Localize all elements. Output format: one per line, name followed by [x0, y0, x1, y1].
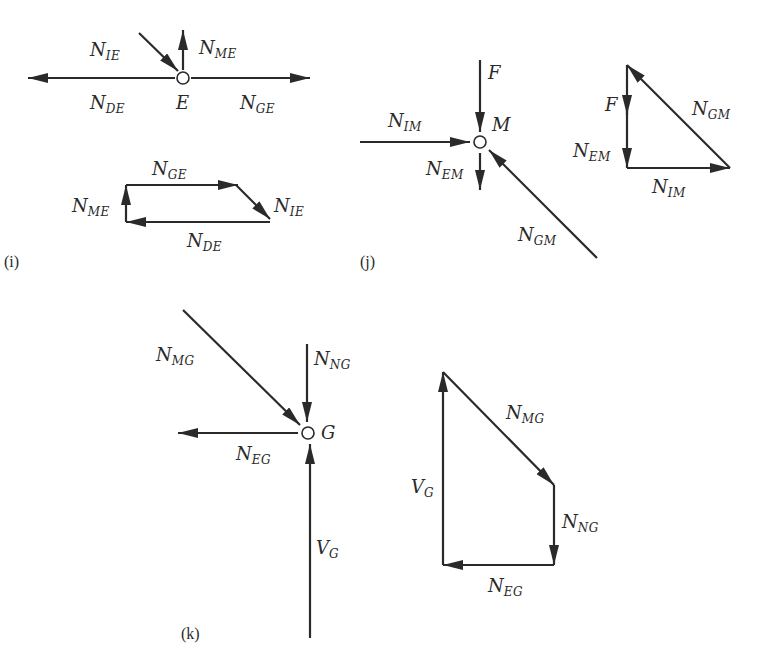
- label-poly-n-de: NDE: [187, 232, 222, 253]
- label-joint-e: E: [176, 94, 189, 112]
- poly-n-mg: [443, 372, 554, 485]
- label-poly-v-g: VG: [411, 478, 434, 499]
- label-poly-n-ge: NGE: [152, 160, 187, 181]
- caption-j: (j): [360, 254, 375, 270]
- label-n-em: NEM: [426, 160, 464, 181]
- label-n-ie: NIE: [90, 41, 120, 62]
- label-joint-m: M: [492, 116, 510, 134]
- label-n-im: NIM: [388, 112, 422, 133]
- panel-i-force-polygon: [126, 185, 270, 222]
- label-poly-f: F: [605, 96, 618, 114]
- label-n-ng: NNG: [314, 350, 351, 371]
- label-f: F: [488, 64, 501, 82]
- label-n-gm: NGM: [518, 226, 557, 247]
- caption-k: (k): [181, 626, 200, 642]
- arrow-n-mg: [183, 310, 300, 425]
- label-poly-n-em: NEM: [573, 142, 611, 163]
- panel-k-free-body: [178, 310, 314, 638]
- label-v-g: VG: [316, 539, 339, 560]
- label-n-mg: NMG: [156, 346, 195, 367]
- label-poly-n-eg: NEG: [488, 577, 523, 598]
- label-n-ge: NGE: [240, 94, 275, 115]
- joint-g-node: [302, 427, 314, 439]
- panel-k-force-polygon: [443, 372, 554, 565]
- panel-i-free-body: [28, 30, 310, 84]
- panel-j-free-body: [360, 60, 597, 258]
- poly-n-ie: [236, 185, 270, 219]
- label-poly-n-mg: NMG: [506, 404, 545, 425]
- label-poly-n-gm: NGM: [692, 100, 731, 121]
- arrow-n-ie: [139, 33, 178, 71]
- label-n-de: NDE: [90, 94, 125, 115]
- label-n-eg: NEG: [236, 445, 271, 466]
- joint-e-node: [177, 72, 189, 84]
- label-n-me: NME: [199, 39, 237, 60]
- label-poly-n-ng: NNG: [562, 513, 599, 534]
- label-poly-n-ie: NIE: [274, 197, 304, 218]
- caption-i: (i): [4, 254, 19, 270]
- joint-m-node: [474, 136, 486, 148]
- label-poly-n-me: NME: [72, 197, 110, 218]
- label-joint-g: G: [321, 424, 335, 442]
- label-poly-n-im: NIM: [652, 178, 686, 199]
